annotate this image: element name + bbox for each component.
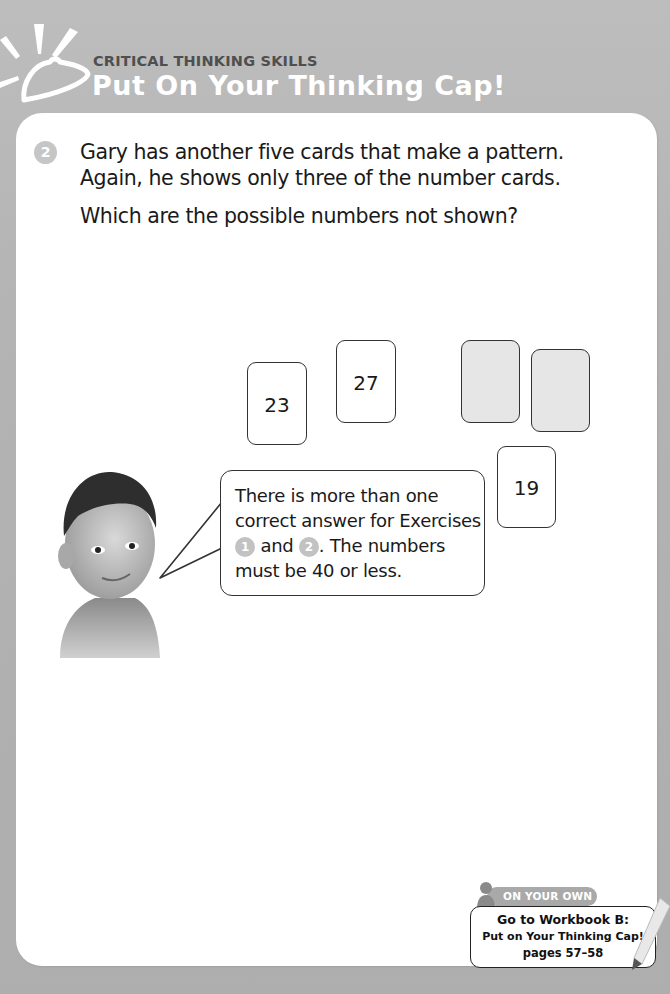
hint-line-3: 1 and 2. The numbers <box>235 533 484 558</box>
section-title: Put On Your Thinking Cap! <box>92 70 506 101</box>
hint-and: and <box>260 535 293 556</box>
boy-photo <box>50 466 165 658</box>
prompt-line-2: Again, he shows only three of the number… <box>80 165 640 191</box>
on-your-own-tag: ON YOUR OWN <box>487 887 597 906</box>
number-card-19: 19 <box>497 446 556 528</box>
workbook-reference: Go to Workbook B: Put on Your Thinking C… <box>470 906 656 968</box>
exercise-1-badge: 1 <box>235 537 255 557</box>
hint-line-2: correct answer for Exercises <box>235 508 484 533</box>
hidden-card-2 <box>531 349 590 432</box>
workbook-line-2: Put on Your Thinking Cap! <box>471 928 655 945</box>
card-value: 27 <box>337 371 395 395</box>
person-icon <box>476 881 496 909</box>
prompt-line-1: Gary has another five cards that make a … <box>80 139 640 165</box>
card-value: 23 <box>248 393 306 417</box>
hint-line-1: There is more than one <box>235 483 484 508</box>
exercise-2-badge: 2 <box>299 537 319 557</box>
number-card-27: 27 <box>336 340 396 423</box>
hint-line-4: must be 40 or less. <box>235 558 484 583</box>
pencil-icon <box>630 892 670 972</box>
exercise-number-badge: 2 <box>34 141 57 164</box>
hidden-card-1 <box>461 340 520 423</box>
exercise-prompt: Gary has another five cards that make a … <box>80 139 640 191</box>
number-card-23: 23 <box>247 362 307 445</box>
hint-line-3-end: . The numbers <box>319 535 445 556</box>
thinking-cap-icon <box>0 20 100 110</box>
workbook-line-1: Go to Workbook B: <box>471 911 655 928</box>
workbook-pages: pages 57–58 <box>471 945 655 962</box>
card-value: 19 <box>498 476 555 500</box>
hint-speech-bubble: There is more than one correct answer fo… <box>220 470 485 596</box>
section-subtitle: CRITICAL THINKING SKILLS <box>93 53 318 69</box>
exercise-question: Which are the possible numbers not shown… <box>80 203 518 229</box>
